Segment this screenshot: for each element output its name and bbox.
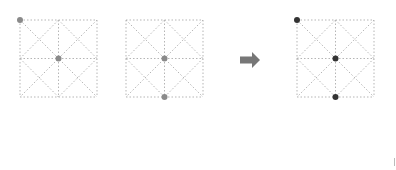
grid-lines bbox=[297, 20, 374, 97]
grid-panel-output bbox=[297, 20, 374, 97]
grid-panel-input-2 bbox=[126, 20, 203, 97]
dot-marker bbox=[294, 17, 300, 23]
dot-marker bbox=[333, 94, 339, 100]
dot-marker bbox=[162, 94, 168, 100]
dot-marker bbox=[162, 56, 168, 62]
dot-marker bbox=[333, 56, 339, 62]
scan-mark bbox=[394, 158, 395, 166]
grid-panel-input-1 bbox=[20, 20, 97, 97]
right-arrow-icon bbox=[240, 52, 260, 72]
grid-lines bbox=[126, 20, 203, 97]
grid-lines bbox=[20, 20, 97, 97]
dot-marker bbox=[56, 56, 62, 62]
dot-marker bbox=[17, 17, 23, 23]
